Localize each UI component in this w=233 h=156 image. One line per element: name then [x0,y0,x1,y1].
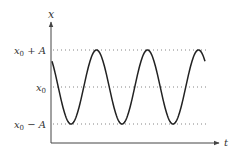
upper-label-rest: + A [24,45,46,56]
oscillation-chart: x t x0 + A x0 x0 − A [0,0,233,156]
lower-label: x0 − A [14,119,46,132]
x-axis-label: t [224,137,229,148]
mid-label: x0 [36,82,46,95]
lower-label-rest: − A [24,119,46,130]
upper-label: x0 + A [14,45,46,58]
mid-label-sub: 0 [42,87,46,95]
y-axis-label: x [48,8,55,21]
oscillation-curve [52,50,205,124]
reference-lines [53,50,206,124]
